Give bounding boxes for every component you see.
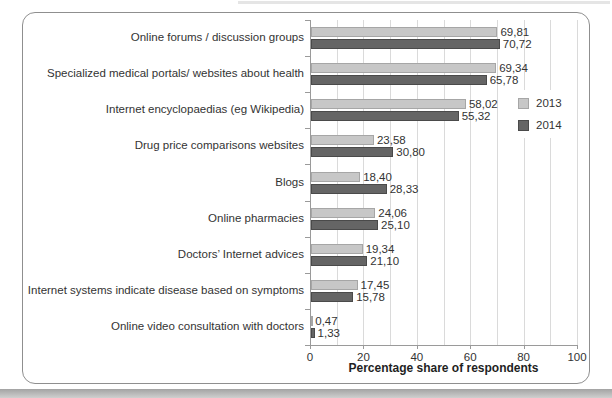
bar-2014 — [311, 147, 393, 157]
bar-2014 — [311, 328, 315, 338]
bar-2014 — [311, 39, 500, 49]
category-label: Blogs — [275, 176, 304, 189]
bar-2014 — [311, 292, 353, 302]
gridline-100 — [577, 20, 578, 345]
x-tick — [310, 345, 311, 349]
bar-2013 — [311, 99, 466, 109]
category-label: Online forums / discussion groups — [131, 31, 304, 44]
bar-2013 — [311, 280, 358, 290]
value-label-2013: 17,45 — [361, 279, 390, 291]
category-label: Doctors’ Internet advices — [178, 248, 304, 261]
legend-item-2014: 2014 — [518, 114, 562, 136]
legend-swatch-2014 — [518, 120, 529, 131]
legend-item-2013: 2013 — [518, 92, 562, 114]
category-label: Internet encyclopaedias (eg Wikipedia) — [106, 103, 304, 116]
y-category-tick — [305, 309, 310, 310]
x-tick — [363, 345, 364, 349]
scan-artifact-bottom — [0, 389, 612, 398]
value-label-2013: 24,06 — [378, 207, 407, 219]
x-axis — [310, 345, 578, 346]
bar-2013 — [311, 208, 375, 218]
chart-canvas: 020406080100Online forums / discussion g… — [0, 0, 612, 398]
x-tick — [577, 345, 578, 349]
x-axis-title: Percentage share of respondents — [310, 361, 577, 375]
category-label: Drug price comparisons websites — [135, 139, 304, 152]
value-label-2014: 30,80 — [396, 146, 425, 158]
y-category-tick — [305, 237, 310, 238]
legend-swatch-2013 — [518, 98, 529, 109]
gridline-90 — [550, 20, 551, 345]
category-label: Internet systems indicate disease based … — [28, 284, 304, 297]
scan-artifact-top — [238, 1, 610, 4]
y-category-tick — [305, 20, 310, 21]
x-tick — [524, 345, 525, 349]
y-category-tick — [305, 128, 310, 129]
legend-label-2014: 2014 — [536, 119, 562, 131]
value-label-2013: 0,47 — [315, 315, 337, 327]
value-label-2013: 19,34 — [366, 243, 395, 255]
value-label-2014: 21,10 — [370, 255, 399, 267]
y-category-tick — [305, 273, 310, 274]
value-label-2013: 58,02 — [469, 98, 498, 110]
category-label: Online video consultation with doctors — [111, 320, 304, 333]
y-category-tick — [305, 201, 310, 202]
legend-label-2013: 2013 — [536, 97, 562, 109]
bar-2014 — [311, 184, 387, 194]
bar-2013 — [311, 244, 363, 254]
value-label-2014: 70,72 — [503, 38, 532, 50]
value-label-2013: 18,40 — [363, 171, 392, 183]
gridline-70 — [497, 20, 498, 345]
value-label-2013: 69,81 — [500, 26, 529, 38]
value-label-2014: 1,33 — [318, 327, 340, 339]
y-category-tick — [305, 164, 310, 165]
bar-2014 — [311, 220, 378, 230]
value-label-2014: 28,33 — [390, 183, 419, 195]
x-tick — [417, 345, 418, 349]
bar-2014 — [311, 75, 487, 85]
bar-2013 — [311, 63, 496, 73]
value-label-2014: 25,10 — [381, 219, 410, 231]
bar-2013 — [311, 316, 313, 326]
bar-2013 — [311, 172, 360, 182]
category-label: Specialized medical portals/ websites ab… — [47, 67, 304, 80]
value-label-2014: 55,32 — [462, 110, 491, 122]
bar-2013 — [311, 135, 374, 145]
value-label-2013: 69,34 — [499, 62, 528, 74]
bar-2014 — [311, 256, 367, 266]
legend: 2013 2014 — [513, 90, 567, 138]
bar-2013 — [311, 27, 497, 37]
value-label-2014: 65,78 — [490, 74, 519, 86]
value-label-2013: 23,58 — [377, 134, 406, 146]
value-label-2014: 15,78 — [356, 291, 385, 303]
y-category-tick — [305, 56, 310, 57]
x-tick — [470, 345, 471, 349]
y-category-tick — [305, 92, 310, 93]
category-label: Online pharmacies — [208, 212, 304, 225]
bar-2014 — [311, 111, 459, 121]
